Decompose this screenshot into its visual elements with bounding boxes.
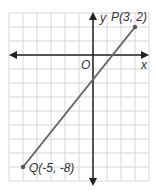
point-q [21, 165, 25, 169]
y-axis-label: y [99, 11, 107, 25]
point-q-label: Q(-5, -8) [29, 161, 74, 175]
origin-label: O [81, 58, 90, 72]
x-axis-left-arrow-icon [9, 51, 17, 59]
point-p [133, 25, 137, 29]
y-axis [89, 12, 97, 186]
point-p-label: P(3, 2) [111, 10, 147, 24]
y-axis-down-arrow-icon [89, 178, 97, 186]
coordinate-plane: y x O P(3, 2) Q(-5, -8) [0, 0, 156, 195]
x-axis-label: x [140, 58, 148, 72]
